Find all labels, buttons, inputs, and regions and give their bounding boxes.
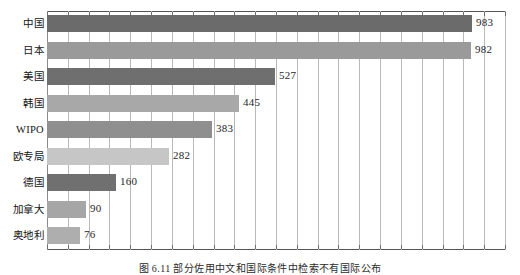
category-label: 欧专局 [0, 144, 44, 171]
category-label: 德国 [0, 170, 44, 197]
bar-row: 445 [47, 91, 505, 118]
bar-value-label: 982 [475, 41, 492, 58]
axis-tick-bottom [505, 245, 506, 249]
bar-row: 983 [47, 11, 505, 38]
bar[interactable] [47, 121, 212, 138]
category-axis: 中国日本美国韩国WIPO欧专局德国加拿大奥地利 [0, 11, 44, 250]
bar-row: 383 [47, 117, 505, 144]
bar-value-label: 983 [476, 14, 493, 31]
bar[interactable] [47, 201, 86, 218]
category-label: 日本 [0, 38, 44, 65]
bar-value-label: 445 [243, 94, 260, 111]
bar-value-label: 383 [216, 120, 233, 137]
category-label: 韩国 [0, 91, 44, 118]
grid-line [505, 11, 506, 250]
plot-area: 9839825274453832821609076 [47, 11, 505, 250]
bar[interactable] [47, 42, 471, 59]
bar-row: 982 [47, 38, 505, 65]
bar[interactable] [47, 148, 169, 165]
category-label: 中国 [0, 11, 44, 38]
bar-value-label: 160 [120, 173, 137, 190]
bar-row: 527 [47, 64, 505, 91]
bar-value-label: 527 [279, 67, 296, 84]
category-label: 奥地利 [0, 223, 44, 250]
bar-row: 76 [47, 223, 505, 250]
bar-value-label: 76 [84, 226, 95, 243]
category-label: 美国 [0, 64, 44, 91]
category-label: WIPO [0, 117, 44, 144]
bar[interactable] [47, 174, 116, 191]
bar[interactable] [47, 95, 239, 112]
bar-value-label: 282 [173, 147, 190, 164]
bar-row: 160 [47, 170, 505, 197]
bar-row: 90 [47, 197, 505, 224]
bar-value-label: 90 [90, 200, 101, 217]
bar[interactable] [47, 68, 275, 85]
figure-caption: 图 6.11 部分佐用中文和国际条件中检索不有国际公布 [0, 262, 520, 275]
bar[interactable] [47, 227, 80, 244]
category-label: 加拿大 [0, 197, 44, 224]
axis-tick-top [505, 12, 506, 16]
bar-row: 282 [47, 144, 505, 171]
bar[interactable] [47, 15, 472, 32]
